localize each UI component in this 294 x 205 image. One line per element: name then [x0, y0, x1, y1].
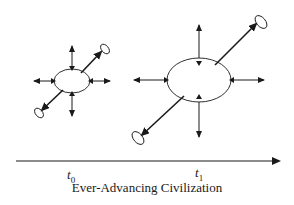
stage-t0 — [33, 43, 111, 120]
inward-tick-left — [164, 77, 169, 83]
arrow-diagonal-up-right-icon — [215, 24, 256, 65]
arrow-diagonal-up-right-icon — [81, 52, 101, 73]
civilization-diagram — [0, 0, 294, 205]
probe-dish-icon — [253, 13, 270, 30]
civilization-ellipse-small — [54, 69, 90, 93]
diagram-caption: Ever-Advancing Civilization — [0, 180, 294, 196]
inward-tick-right — [88, 78, 93, 84]
arrow-diagonal-down-left-icon — [142, 96, 184, 135]
inward-tick-top — [196, 61, 202, 66]
inward-tick-bottom — [196, 94, 202, 99]
arrow-diagonal-down-left-icon — [42, 90, 63, 110]
inward-tick-left — [51, 78, 56, 84]
inward-tick-bottom — [69, 91, 75, 96]
inward-tick-right — [229, 77, 234, 83]
stage-t1 — [130, 13, 270, 146]
inward-tick-top — [69, 66, 75, 71]
probe-dish-icon — [130, 129, 147, 146]
